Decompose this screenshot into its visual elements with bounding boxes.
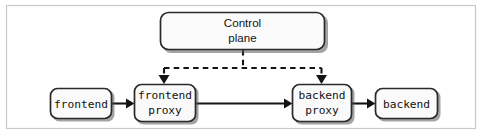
control-plane-label-line2: plane [228,31,256,44]
control-plane-label-line1: Control [224,16,261,29]
node-backend-proxy[interactable]: backend proxy [293,85,355,125]
diagram-figure: Control plane frontend frontend proxy ba… [0,0,482,136]
backend-label: backend [383,98,430,111]
node-frontend[interactable]: frontend [51,89,115,122]
node-control-plane[interactable]: Control plane [161,13,329,54]
frontend-proxy-label-line2: proxy [148,104,182,117]
frontend-label: frontend [54,98,108,111]
backend-proxy-label-line2: proxy [305,104,339,117]
backend-proxy-label-line1: backend [298,89,345,102]
frontend-proxy-label-line1: frontend [138,89,192,102]
node-frontend-proxy[interactable]: frontend proxy [135,85,199,125]
node-backend[interactable]: backend [376,89,441,122]
